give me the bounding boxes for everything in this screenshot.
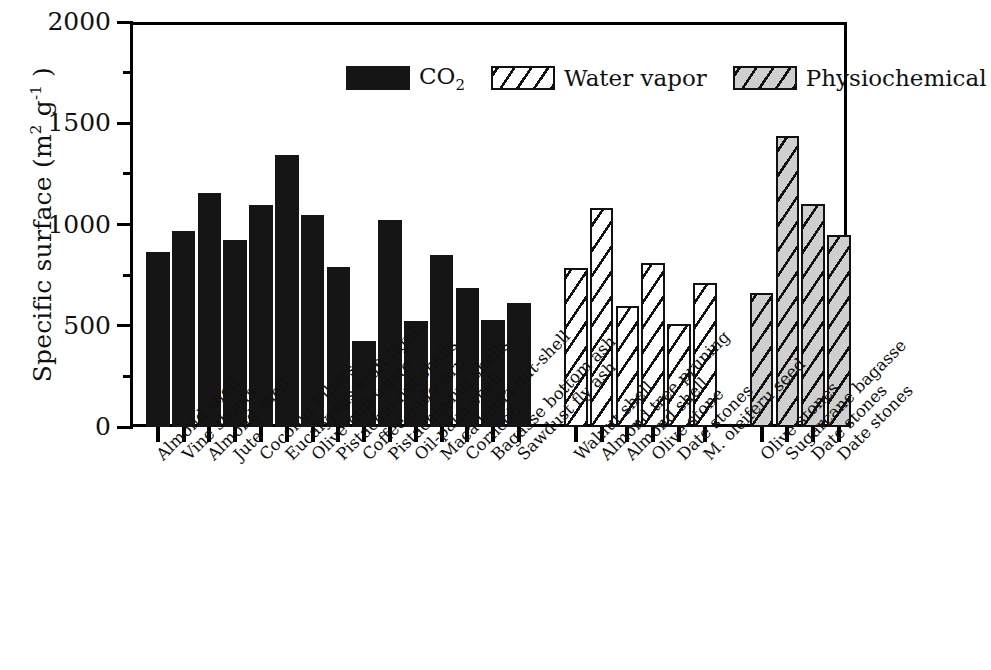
y-tick-major: [117, 21, 133, 24]
legend-item: CO2: [346, 63, 465, 94]
y-tick-major: [117, 324, 133, 327]
y-tick-minor: [123, 375, 133, 378]
legend-swatch-wv: [491, 66, 555, 90]
y-tick-label: 1000: [0, 212, 111, 237]
y-tick-label: 1500: [0, 110, 111, 135]
legend-label: CO2: [419, 63, 465, 94]
y-tick-minor: [123, 172, 133, 175]
legend-swatch-pc: [733, 66, 797, 90]
legend-label: Physiochemical: [806, 65, 987, 91]
y-tick-major: [117, 426, 133, 429]
y-tick-label: 2000: [0, 9, 111, 34]
y-tick-label: 500: [0, 313, 111, 338]
legend-swatch-co2: [346, 66, 410, 90]
x-tick: [760, 427, 764, 442]
y-tick-label: 0: [0, 414, 111, 439]
x-tick: [156, 427, 160, 442]
y-tick-minor: [123, 71, 133, 74]
x-tick: [574, 427, 578, 442]
y-tick-minor: [123, 274, 133, 277]
bar: [172, 231, 196, 427]
bar: [146, 252, 170, 427]
y-axis-title-part3: ): [28, 67, 57, 85]
legend-label: Water vapor: [564, 65, 707, 91]
legend: CO2Water vaporPhysiochemical: [346, 63, 991, 94]
legend-item: Water vapor: [491, 65, 707, 91]
y-tick-major: [117, 223, 133, 226]
y-axis-title-part1: Specific surface (m: [28, 134, 57, 382]
y-axis-title-sup2: -1: [27, 85, 45, 100]
legend-item: Physiochemical: [733, 65, 987, 91]
y-tick-major: [117, 122, 133, 125]
legend-label-subscript: 2: [455, 76, 465, 94]
